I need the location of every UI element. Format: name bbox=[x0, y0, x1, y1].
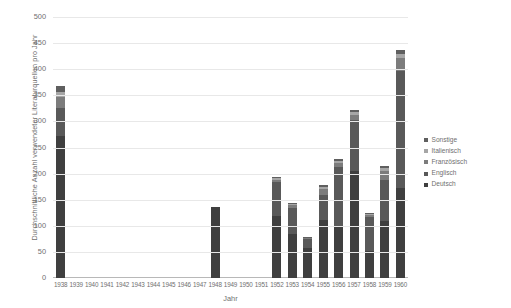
table-row[interactable] bbox=[56, 86, 65, 278]
x-tick-label: 1939 bbox=[68, 281, 83, 288]
legend-label: Französisch bbox=[432, 159, 468, 166]
legend-item[interactable]: Sonstige bbox=[424, 137, 467, 144]
bar-segment-englisch bbox=[365, 217, 374, 250]
table-row[interactable] bbox=[334, 159, 343, 278]
legend-label: Italienisch bbox=[432, 148, 461, 155]
bar-segment-französisch bbox=[56, 97, 65, 108]
table-row[interactable] bbox=[396, 50, 405, 278]
bar-segment-englisch bbox=[334, 167, 343, 225]
x-axis-labels: 1938193919401941194219431944194519461947… bbox=[53, 281, 408, 288]
gridline bbox=[53, 17, 408, 18]
table-row[interactable] bbox=[211, 207, 220, 279]
x-tick-label: 1945 bbox=[161, 281, 176, 288]
chart-legend: SonstigeItalienischFranzösischEnglischDe… bbox=[424, 137, 467, 188]
x-tick-label: 1946 bbox=[177, 281, 192, 288]
x-tick-label: 1949 bbox=[223, 281, 238, 288]
legend-item[interactable]: Italienisch bbox=[424, 148, 467, 155]
x-tick-label: 1959 bbox=[377, 281, 392, 288]
legend-item[interactable]: Englisch bbox=[424, 170, 467, 177]
bar-segment-deutsch bbox=[396, 188, 405, 278]
legend-swatch-icon bbox=[424, 172, 428, 176]
legend-swatch-icon bbox=[424, 183, 428, 187]
y-tick-label: 150 bbox=[8, 196, 46, 203]
y-tick-label: 500 bbox=[8, 13, 46, 20]
table-row[interactable] bbox=[272, 177, 281, 278]
x-tick-label: 1948 bbox=[207, 281, 222, 288]
stacked-bar-chart: Durchschnittliche Anzahl verwendeter Lit… bbox=[0, 0, 511, 308]
legend-item[interactable]: Deutsch bbox=[424, 181, 467, 188]
y-tick-label: 300 bbox=[8, 117, 46, 124]
y-tick-label: 250 bbox=[8, 144, 46, 151]
x-tick-label: 1938 bbox=[53, 281, 68, 288]
plot-area bbox=[53, 17, 408, 278]
legend-item[interactable]: Französisch bbox=[424, 159, 467, 166]
x-tick-label: 1951 bbox=[254, 281, 269, 288]
legend-label: Sonstige bbox=[432, 137, 458, 144]
bar-segment-deutsch bbox=[211, 207, 220, 279]
x-tick-label: 1950 bbox=[238, 281, 253, 288]
x-tick-label: 1944 bbox=[146, 281, 161, 288]
bar-segment-deutsch bbox=[319, 220, 328, 278]
x-tick-label: 1960 bbox=[393, 281, 408, 288]
bar-segment-deutsch bbox=[56, 136, 65, 278]
gridline bbox=[53, 121, 408, 122]
y-tick-label: 450 bbox=[8, 39, 46, 46]
x-tick-label: 1947 bbox=[192, 281, 207, 288]
y-tick-label: 50 bbox=[8, 248, 46, 255]
x-tick-label: 1957 bbox=[346, 281, 361, 288]
bar-segment-französisch bbox=[380, 171, 389, 180]
bar-segment-deutsch bbox=[365, 251, 374, 278]
table-row[interactable] bbox=[288, 203, 297, 278]
x-tick-label: 1942 bbox=[115, 281, 130, 288]
y-tick-label: 200 bbox=[8, 170, 46, 177]
table-row[interactable] bbox=[303, 237, 312, 278]
y-tick-label: 0 bbox=[8, 274, 46, 281]
bar-segment-englisch bbox=[350, 120, 359, 171]
bar-segment-englisch bbox=[303, 239, 312, 247]
y-tick-label: 350 bbox=[8, 91, 46, 98]
legend-swatch-icon bbox=[424, 149, 428, 153]
x-axis-title: Jahr bbox=[53, 294, 408, 303]
table-row[interactable] bbox=[380, 166, 389, 278]
x-tick-label: 1958 bbox=[362, 281, 377, 288]
x-tick-label: 1941 bbox=[99, 281, 114, 288]
legend-swatch-icon bbox=[424, 138, 428, 142]
bar-segment-deutsch bbox=[350, 171, 359, 278]
x-tick-label: 1943 bbox=[130, 281, 145, 288]
bar-segment-englisch bbox=[319, 195, 328, 220]
gridline bbox=[53, 200, 408, 201]
legend-swatch-icon bbox=[424, 160, 428, 164]
legend-label: Deutsch bbox=[432, 181, 456, 188]
gridline bbox=[53, 226, 408, 227]
bar-segment-deutsch bbox=[288, 234, 297, 278]
x-tick-label: 1940 bbox=[84, 281, 99, 288]
x-tick-label: 1956 bbox=[331, 281, 346, 288]
gridline bbox=[53, 174, 408, 175]
legend-label: Englisch bbox=[432, 170, 457, 177]
y-tick-label: 400 bbox=[8, 65, 46, 72]
bar-segment-englisch bbox=[396, 71, 405, 188]
gridline bbox=[53, 69, 408, 70]
x-tick-label: 1954 bbox=[300, 281, 315, 288]
gridline bbox=[53, 95, 408, 96]
x-tick-label: 1952 bbox=[269, 281, 284, 288]
bar-segment-englisch bbox=[288, 208, 297, 234]
x-tick-label: 1953 bbox=[285, 281, 300, 288]
gridline bbox=[53, 148, 408, 149]
bar-segment-deutsch bbox=[380, 221, 389, 278]
x-tick-label: 1955 bbox=[315, 281, 330, 288]
gridline bbox=[53, 252, 408, 253]
y-tick-label: 100 bbox=[8, 222, 46, 229]
table-row[interactable] bbox=[365, 213, 374, 278]
gridline bbox=[53, 43, 408, 44]
